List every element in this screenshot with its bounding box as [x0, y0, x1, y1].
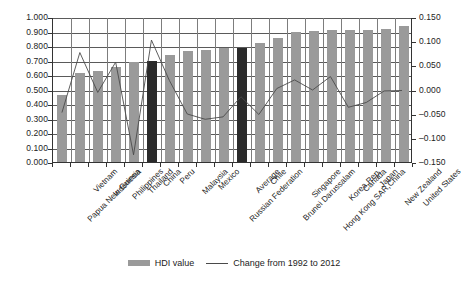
category-label-peru: Peru [178, 167, 197, 186]
x-axis-tick [88, 163, 89, 167]
x-axis-tick [250, 163, 251, 167]
left-axis-tick-label: 0.300 [2, 115, 48, 124]
right-axis-tick [412, 115, 416, 116]
right-axis-tick [412, 18, 416, 19]
left-axis-tick [48, 134, 52, 135]
x-axis-tick [160, 163, 161, 167]
right-axis-tick [412, 139, 416, 140]
left-axis-tick-label: 0.600 [2, 71, 48, 80]
x-axis-tick [196, 163, 197, 167]
left-axis-tick [48, 149, 52, 150]
right-axis-tick [412, 91, 416, 92]
x-axis-tick [286, 163, 287, 167]
right-axis-tick-label: 0.100 [419, 37, 441, 46]
x-axis-tick [412, 163, 413, 167]
line-swatch-icon [206, 263, 228, 264]
x-axis-tick [340, 163, 341, 167]
left-axis-tick [48, 62, 52, 63]
left-axis-tick-label: 0.800 [2, 42, 48, 51]
x-axis-tick [52, 163, 53, 167]
left-axis-tick-label: 0.500 [2, 86, 48, 95]
left-axis-tick-label: 0.200 [2, 129, 48, 138]
legend-item-change: Change from 1992 to 2012 [206, 258, 340, 268]
left-axis-tick-label: 0.700 [2, 57, 48, 66]
left-axis-tick [48, 105, 52, 106]
x-axis-tick [178, 163, 179, 167]
left-axis-tick-label: 0.900 [2, 28, 48, 37]
left-axis-tick [48, 91, 52, 92]
left-axis-tick [48, 47, 52, 48]
bar-swatch-icon [128, 260, 150, 266]
x-axis-tick [124, 163, 125, 167]
right-axis-tick-label: –0.100 [419, 134, 446, 143]
right-axis-tick [412, 42, 416, 43]
hdi-chart: 0.0000.1000.2000.3000.4000.5000.6000.700… [0, 0, 468, 285]
x-axis-tick [322, 163, 323, 167]
legend-label-change: Change from 1992 to 2012 [233, 258, 340, 268]
legend-label-hdi-value: HDI value [155, 258, 195, 268]
left-axis-tick-label: 0.000 [2, 158, 48, 167]
right-axis-tick-label: –0.150 [419, 158, 446, 167]
right-axis-tick-label: 0.000 [419, 86, 441, 95]
left-axis-tick [48, 33, 52, 34]
x-axis-tick [142, 163, 143, 167]
x-axis-tick [214, 163, 215, 167]
x-axis-tick [358, 163, 359, 167]
right-axis-tick-label: 0.050 [419, 61, 441, 70]
left-axis-tick-label: 1.000 [2, 13, 48, 22]
x-axis-tick [106, 163, 107, 167]
chart-legend: HDI value Change from 1992 to 2012 [0, 258, 468, 268]
x-axis-tick [394, 163, 395, 167]
legend-item-hdi-value: HDI value [128, 258, 195, 268]
x-axis-tick [70, 163, 71, 167]
left-axis-tick [48, 18, 52, 19]
plot-area [52, 18, 412, 163]
x-axis-tick [268, 163, 269, 167]
line-series [53, 18, 411, 162]
right-axis-tick [412, 66, 416, 67]
right-axis-tick-label: –0.050 [419, 110, 446, 119]
left-axis-tick [48, 76, 52, 77]
left-axis-tick-label: 0.400 [2, 100, 48, 109]
x-axis-tick [304, 163, 305, 167]
left-axis-tick [48, 120, 52, 121]
right-axis-tick-label: 0.150 [419, 13, 441, 22]
left-axis-tick-label: 0.100 [2, 144, 48, 153]
x-axis-tick [232, 163, 233, 167]
